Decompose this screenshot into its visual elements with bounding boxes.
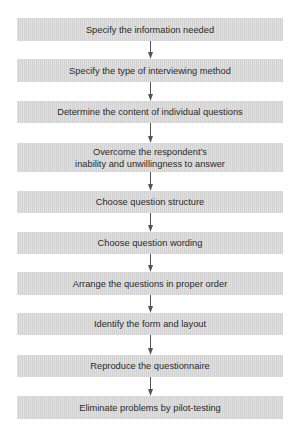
step-pilot-testing: Eliminate problems by pilot-testing — [17, 396, 283, 419]
step-interviewing-method: Specify the type of interviewing method — [17, 59, 283, 82]
step-arrange-order: Arrange the questions in proper order — [17, 272, 283, 295]
step-label: Reproduce the questionnaire — [90, 360, 209, 372]
step-label: Determine the content of individual ques… — [57, 106, 243, 118]
arrow-down-icon — [148, 172, 153, 191]
step-label-line1: Overcome the respondent’s — [93, 146, 207, 158]
step-label-line2: inability and unwillingness to answer — [75, 158, 225, 170]
step-label: Identify the form and layout — [94, 318, 206, 330]
arrow-down-icon — [148, 335, 153, 355]
arrow-down-icon — [148, 82, 153, 101]
arrow-down-icon — [148, 295, 153, 313]
questionnaire-design-flowchart: Specify the information needed Specify t… — [0, 0, 299, 431]
arrow-down-icon — [148, 377, 153, 396]
step-label: Arrange the questions in proper order — [73, 278, 228, 290]
arrow-down-icon — [148, 41, 153, 59]
arrow-down-icon — [148, 123, 153, 143]
step-reproduce-questionnaire: Reproduce the questionnaire — [17, 355, 283, 377]
arrow-down-icon — [148, 213, 153, 232]
step-label: Choose question structure — [96, 196, 205, 208]
step-content-of-questions: Determine the content of individual ques… — [17, 101, 283, 123]
step-question-wording: Choose question wording — [17, 232, 283, 254]
step-label: Specify the information needed — [86, 24, 214, 36]
step-overcome-inability: Overcome the respondent’s inability and … — [17, 143, 283, 172]
step-form-and-layout: Identify the form and layout — [17, 313, 283, 335]
step-label: Specify the type of interviewing method — [69, 65, 231, 77]
step-label: Choose question wording — [98, 237, 203, 249]
step-question-structure: Choose question structure — [17, 191, 283, 213]
arrow-down-icon — [148, 254, 153, 272]
step-specify-information: Specify the information needed — [17, 18, 283, 41]
step-label: Eliminate problems by pilot-testing — [79, 402, 221, 414]
